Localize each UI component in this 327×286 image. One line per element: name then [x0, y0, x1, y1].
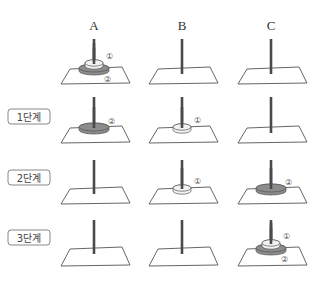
disk-1 [85, 43, 103, 69]
peg-b [149, 39, 218, 84]
row-1: 1단계②① [8, 97, 307, 143]
column-label-a: A [89, 18, 99, 33]
disk-2 [256, 168, 286, 195]
disk-label-1: ① [283, 232, 290, 241]
disk-1 [173, 107, 191, 133]
platform [238, 126, 307, 143]
peg-a: ② [61, 97, 130, 143]
platform [149, 247, 218, 266]
row-0: ②① [61, 39, 307, 84]
row-3: 3단계②① [8, 220, 307, 266]
peg-a [61, 160, 130, 204]
disk-label-1: ① [194, 116, 201, 125]
platform [61, 247, 130, 266]
platform [238, 67, 307, 84]
disk-label-1: ① [194, 177, 201, 186]
disk-label-2: ② [108, 117, 115, 126]
peg-a: ②① [61, 39, 130, 84]
stage-label: 1단계 [17, 112, 41, 123]
peg-c [238, 97, 307, 143]
stage-label: 2단계 [17, 173, 41, 184]
platform [61, 187, 130, 204]
stage-label: 3단계 [17, 233, 41, 244]
disk-label-2: ② [281, 255, 288, 264]
peg-b: ① [149, 160, 218, 204]
peg-b [149, 220, 218, 266]
peg-c: ② [238, 160, 307, 204]
peg-a [61, 220, 130, 266]
column-label-b: B [178, 18, 187, 33]
peg-c [238, 39, 307, 84]
disk-label-2: ② [104, 75, 111, 84]
row-2: 2단계①② [8, 160, 307, 204]
disk-1 [173, 168, 191, 194]
disk-label-2: ② [285, 178, 292, 187]
platform [149, 67, 218, 84]
disk-label-1: ① [106, 52, 113, 61]
disk-2 [79, 107, 109, 134]
column-label-c: C [267, 18, 276, 33]
hanoi-diagram: ABC②①1단계②①2단계①②3단계②① [0, 0, 327, 286]
peg-b: ① [149, 97, 218, 143]
disk-1 [262, 223, 280, 249]
peg-c: ②① [238, 220, 307, 266]
